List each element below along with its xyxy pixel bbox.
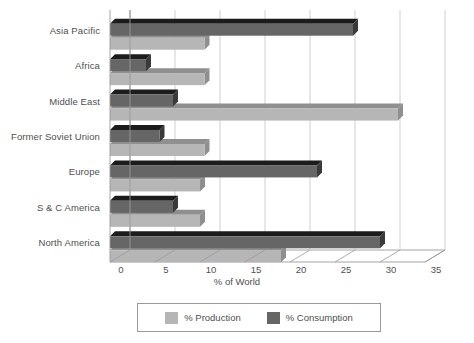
x-tick-label: 35 [421, 264, 451, 275]
bar-consumption [110, 231, 385, 248]
chart-container: Asia PacificAfricaMiddle EastFormer Sovi… [0, 0, 474, 343]
legend-swatch-icon [267, 312, 280, 324]
x-tick-label: 10 [196, 264, 226, 275]
bar-consumption [110, 160, 322, 177]
legend-swatch-icon [165, 312, 178, 324]
x-tick-label: 0 [106, 264, 136, 275]
chart-legend: % Production% Consumption [137, 303, 381, 332]
category-label: Middle East [49, 96, 100, 107]
category-label: North America [39, 237, 101, 248]
legend-item[interactable]: % Consumption [267, 312, 353, 324]
bar-group [110, 19, 403, 263]
x-axis-title: % of World [0, 276, 474, 287]
category-label: Asia Pacific [50, 25, 100, 36]
category-label: Africa [75, 60, 100, 71]
bar-consumption [110, 90, 178, 107]
category-label: Former Soviet Union [11, 131, 100, 142]
bar-consumption [110, 19, 358, 36]
legend-item[interactable]: % Production [165, 312, 241, 324]
x-tick-label: 30 [376, 264, 406, 275]
x-tick-label: 25 [331, 264, 361, 275]
x-tick-label: 15 [241, 264, 271, 275]
bar-consumption [110, 196, 178, 213]
bar-consumption [110, 125, 165, 142]
category-label: S & C America [37, 202, 100, 213]
bar-consumption [110, 54, 151, 71]
legend-label: % Consumption [286, 312, 353, 323]
legend-label: % Production [184, 312, 241, 323]
category-label: Europe [69, 166, 100, 177]
x-tick-label: 5 [151, 264, 181, 275]
x-tick-label: 20 [286, 264, 316, 275]
